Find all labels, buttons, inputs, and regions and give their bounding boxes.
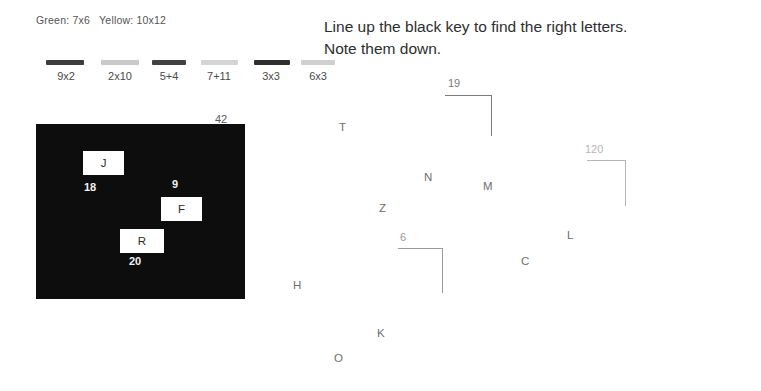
- swatch-bar[interactable]: [201, 60, 238, 65]
- color-legend-text: Green: 7x6 Yellow: 10x12: [36, 14, 166, 26]
- instructions-line-2: Note them down.: [324, 38, 744, 60]
- bracket-label: 6: [400, 231, 406, 243]
- swatch-label: 3x3: [251, 70, 291, 82]
- black-key-box[interactable]: J18F9R20: [36, 124, 245, 299]
- field-letter-n[interactable]: N: [424, 171, 432, 183]
- swatch-label: 5+4: [149, 70, 189, 82]
- swatch-label: 6x3: [298, 70, 338, 82]
- swatch-label: 7+11: [198, 70, 240, 82]
- key-cell-number: 20: [129, 255, 141, 267]
- bracket-vertical-line: [625, 160, 626, 206]
- bracket-vertical-line: [442, 248, 443, 293]
- key-cell-j[interactable]: J: [83, 151, 124, 175]
- field-letter-t[interactable]: T: [339, 121, 346, 133]
- bracket-vertical-line: [491, 95, 492, 136]
- bracket-horizontal-line: [398, 248, 443, 249]
- field-letter-l[interactable]: L: [567, 229, 573, 241]
- field-letter-m[interactable]: M: [483, 180, 493, 192]
- key-cell-f[interactable]: F: [161, 197, 202, 221]
- key-cell-r[interactable]: R: [120, 229, 164, 253]
- key-cell-number: 18: [84, 181, 96, 193]
- corner-bracket[interactable]: 6: [398, 248, 443, 293]
- swatch-bar[interactable]: [301, 60, 335, 65]
- field-letter-c[interactable]: C: [521, 255, 529, 267]
- swatch-bar[interactable]: [152, 60, 186, 65]
- swatch-bar[interactable]: [254, 60, 290, 65]
- field-letter-z[interactable]: Z: [379, 202, 386, 214]
- worksheet-canvas: Green: 7x6 Yellow: 10x12 9x22x105+47+113…: [0, 0, 761, 391]
- instructions-line-1: Line up the black key to find the right …: [324, 16, 744, 38]
- field-letter-o[interactable]: O: [334, 352, 343, 364]
- corner-bracket[interactable]: 19: [445, 95, 492, 136]
- swatch-label: 9x2: [46, 70, 86, 82]
- swatch-label: 2x10: [99, 70, 141, 82]
- bracket-horizontal-line: [445, 95, 492, 96]
- bracket-label: 120: [585, 143, 603, 155]
- instructions-block: Line up the black key to find the right …: [324, 16, 744, 60]
- swatch-bar[interactable]: [101, 60, 139, 65]
- swatch-bar[interactable]: [46, 60, 84, 65]
- field-letter-k[interactable]: K: [377, 327, 385, 339]
- corner-bracket[interactable]: 120: [587, 160, 626, 206]
- field-letter-h[interactable]: H: [293, 279, 301, 291]
- bracket-label: 19: [448, 77, 460, 89]
- key-cell-number: 9: [172, 178, 178, 190]
- bracket-horizontal-line: [587, 160, 626, 161]
